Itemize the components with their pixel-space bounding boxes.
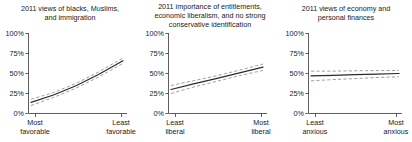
panel-3-ytick-0: 0% [294,109,305,118]
panel-1-ytick-50: 50% [10,69,25,78]
panel-3-upper-ci [311,70,399,71]
panel-1-ytick-25: 25% [10,89,25,98]
panel-3-xtick-right-line-1: Most [388,118,404,127]
panel-1-ytick-100: 100% [6,29,25,38]
panel-3-ytick-100: 100% [286,29,305,38]
panel-3-ytick-75: 75% [290,49,305,58]
chart-panel-3: 2011 views of economy and personal finan… [280,0,412,142]
panel-1-xtick-left-line-1: Most [27,118,43,127]
panel-2-xtick-right-line-2: liberal [251,127,270,136]
panel-3-xtick-left-line-1: Least [306,118,324,127]
three-panel-figure: 2011 views of blacks, Muslims, and immig… [0,0,412,142]
panel-2-data-lines [171,64,263,94]
panel-2-xtick-right-line-1: Most [253,118,269,127]
panel-2-xtick-left-line-1: Least [166,118,184,127]
chart-panel-2: 2011 importance of entitlements, economi… [140,0,280,142]
panel-1-fit-line [31,61,123,103]
panel-2-fit-line [171,67,263,89]
panel-1-xtick-label-left: Most favorable [9,118,61,136]
panel-3-y-axis: 100% 75% 50% 25% 0% [286,29,309,118]
panel-3-xtick-right-line-2: anxious [384,127,409,136]
panel-1-ytick-75: 75% [10,49,25,58]
panel-1-xtick-right-line-1: Least [112,118,130,127]
panel-3-xtick-label-right: Most anxious [370,118,412,136]
panel-3-ytick-50: 50% [290,69,305,78]
panel-2-plot-area: 100% 75% 50% 25% 0% Least [140,0,280,142]
panel-2-xtick-left-line-2: liberal [165,127,184,136]
panel-3-ytick-25: 25% [290,89,305,98]
panel-1-ytick-0: 0% [14,109,25,118]
chart-panel-1: 2011 views of blacks, Muslims, and immig… [0,0,140,142]
panel-2-ytick-0: 0% [154,109,165,118]
panel-2-ytick-75: 75% [150,49,165,58]
panel-1-x-axis [29,114,128,118]
panel-1-y-axis: 100% 75% 50% 25% 0% [6,29,29,118]
panel-2-upper-ci [171,64,263,86]
panel-3-data-lines [311,70,399,80]
panel-3-xtick-left-line-2: anxious [303,127,328,136]
panel-1-upper-ci [31,58,123,99]
panel-1-plot-area: 100% 75% 50% 25% 0% Most [0,0,140,142]
panel-3-fit-line [311,74,399,76]
panel-3-plot-area: 100% 75% 50% 25% 0% Least [280,0,412,142]
panel-1-lower-ci [31,63,123,105]
panel-3-lower-ci [311,77,399,81]
panel-2-ytick-25: 25% [150,89,165,98]
panel-3-x-axis [309,114,403,118]
panel-2-xtick-label-left: Least liberal [149,118,201,136]
panel-2-ytick-100: 100% [146,29,165,38]
panel-2-lower-ci [171,70,263,93]
panel-3-xtick-label-left: Least anxious [289,118,341,136]
panel-2-ytick-50: 50% [150,69,165,78]
panel-2-y-axis: 100% 75% 50% 25% 0% [146,29,169,118]
panel-2-x-axis [169,114,268,118]
panel-1-xtick-right-line-2: favorable [106,127,136,136]
panel-1-data-lines [31,58,123,106]
panel-1-xtick-left-line-2: favorable [20,127,50,136]
